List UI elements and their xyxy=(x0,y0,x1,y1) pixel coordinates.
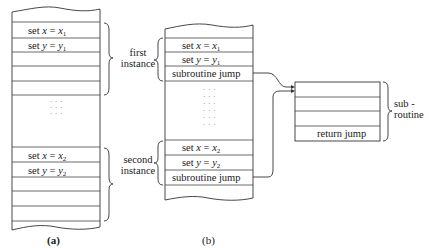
label-subroutine: sub - routine xyxy=(394,98,424,120)
memory-column-b: set x = x1 set y = y1 subroutine jump · … xyxy=(121,24,253,247)
row-set-y2: set y = y2 xyxy=(28,165,67,178)
svg-text:second: second xyxy=(123,154,153,165)
brace-subroutine xyxy=(383,82,392,141)
row-set-y2-b: set y = y2 xyxy=(182,157,221,170)
svg-text:· · ·: · · · xyxy=(50,110,63,118)
svg-text:routine: routine xyxy=(394,109,424,120)
jump-arrows xyxy=(253,73,295,177)
caption-a: (a) xyxy=(47,234,60,247)
arrowhead-icon xyxy=(291,89,295,93)
label-first-instance: first instance xyxy=(121,47,156,69)
subroutine-block: return jump sub - routine xyxy=(295,82,424,141)
caption-b: (b) xyxy=(202,234,215,247)
program-memory-diagram: set x = x1 set y = y1 · · · · · · · · · … xyxy=(0,0,429,248)
svg-text:· · ·: · · · xyxy=(203,121,216,129)
label-second-instance: second instance xyxy=(121,154,156,176)
brace-first-instance-a xyxy=(104,23,113,95)
row-set-x1-b: set x = x1 xyxy=(182,40,221,53)
row-return-jump: return jump xyxy=(317,128,366,139)
row-set-y1: set y = y1 xyxy=(28,40,67,53)
row-set-x2-b: set x = x2 xyxy=(182,142,221,155)
svg-text:first: first xyxy=(130,47,147,58)
brace-second-instance-b xyxy=(154,141,163,185)
arrow-first-jump xyxy=(253,73,291,87)
row-subroutine-jump-2: subroutine jump xyxy=(172,172,241,183)
row-set-x2: set x = x2 xyxy=(28,150,67,163)
ellipsis-dots-b: · · · · · · · · · · · · · · · · · · xyxy=(203,86,216,129)
ellipsis-dots-a: · · · · · · · · · xyxy=(50,98,63,118)
svg-text:instance: instance xyxy=(121,58,156,69)
brace-second-instance-a xyxy=(104,148,113,221)
brace-first-instance-b xyxy=(154,38,163,81)
arrow-second-jump xyxy=(253,91,291,177)
row-set-x1: set x = x1 xyxy=(28,25,67,38)
svg-text:instance: instance xyxy=(121,165,156,176)
memory-column-a: set x = x1 set y = y1 · · · · · · · · · … xyxy=(12,7,113,247)
arrowhead-icon xyxy=(291,85,295,89)
svg-text:sub -: sub - xyxy=(394,98,415,109)
row-subroutine-jump-1: subroutine jump xyxy=(172,68,241,79)
row-set-y1-b: set y = y1 xyxy=(182,54,221,67)
